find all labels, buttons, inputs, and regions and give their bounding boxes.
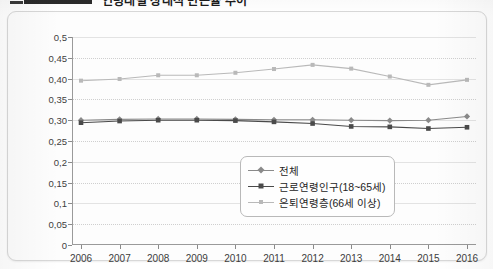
x-tick-label: 2014 bbox=[379, 253, 401, 264]
y-tick-mark bbox=[68, 245, 72, 246]
legend-item-label: 근로연령인구(18~65세) bbox=[279, 179, 385, 194]
y-tick-label: 0,30 bbox=[49, 115, 68, 126]
x-tick-label: 2009 bbox=[186, 253, 208, 264]
x-tick-label: 2016 bbox=[456, 253, 478, 264]
data-point-marker bbox=[195, 73, 199, 77]
data-point-marker bbox=[388, 125, 393, 130]
y-tick-label: 0,15 bbox=[49, 177, 68, 188]
x-tick-label: 2007 bbox=[108, 253, 130, 264]
legend-item: 근로연령인구(18~65세) bbox=[248, 178, 385, 194]
data-point-marker bbox=[388, 75, 392, 79]
data-point-marker bbox=[195, 118, 200, 123]
data-point-marker bbox=[426, 83, 430, 87]
legend-item-label: 전체 bbox=[279, 163, 299, 178]
chart-title-text: 연령대별 상대적 빈곤율 추이 bbox=[102, 0, 247, 8]
data-point-marker bbox=[233, 71, 237, 75]
y-tick-label: 0,1 bbox=[54, 198, 67, 209]
legend-item: 은퇴연령층(66세 이상) bbox=[248, 194, 385, 210]
x-tick-mark bbox=[313, 245, 314, 249]
chart-card: 00,050,10,150,20,250,300,350,400,450,5 2… bbox=[7, 11, 487, 261]
data-point-marker bbox=[465, 78, 469, 82]
data-point-marker bbox=[426, 126, 431, 131]
data-series bbox=[79, 63, 469, 87]
legend-marker-square-icon bbox=[248, 180, 274, 192]
legend-marker-diamond-icon bbox=[248, 164, 274, 176]
legend-item: 전체 bbox=[248, 162, 385, 178]
x-tick-mark bbox=[351, 245, 352, 249]
data-point-marker bbox=[349, 67, 353, 71]
data-series bbox=[79, 118, 470, 131]
data-point-marker bbox=[156, 73, 160, 77]
x-tick-mark bbox=[274, 245, 275, 249]
y-tick-label: 0,5 bbox=[54, 32, 67, 43]
x-tick-mark bbox=[197, 245, 198, 249]
data-point-marker bbox=[272, 67, 276, 71]
data-point-marker bbox=[233, 118, 238, 123]
chart-legend: 전체근로연령인구(18~65세)은퇴연령층(66세 이상) bbox=[240, 156, 395, 217]
y-tick-label: 0,2 bbox=[54, 156, 67, 167]
x-tick-label: 2012 bbox=[301, 253, 323, 264]
title-dash-marker bbox=[10, 1, 23, 4]
data-point-marker bbox=[272, 120, 277, 125]
legend-marker-square-small-icon bbox=[248, 196, 274, 208]
x-tick-label: 2010 bbox=[224, 253, 246, 264]
y-tick-label: 0,25 bbox=[49, 136, 68, 147]
x-tick-label: 2015 bbox=[417, 253, 439, 264]
data-point-marker bbox=[349, 124, 354, 129]
data-point-marker bbox=[79, 120, 84, 125]
data-point-marker bbox=[156, 118, 161, 123]
x-tick-mark bbox=[158, 245, 159, 249]
legend-item-label: 은퇴연령층(66세 이상) bbox=[279, 195, 381, 210]
x-tick-mark bbox=[467, 245, 468, 249]
x-tick-label: 2008 bbox=[147, 253, 169, 264]
y-tick-label: 0,35 bbox=[49, 94, 68, 105]
x-tick-mark bbox=[81, 245, 82, 249]
x-tick-mark bbox=[235, 245, 236, 249]
cropped-title-bar: 연령대별 상대적 빈곤율 추이 bbox=[0, 0, 493, 9]
y-tick-label: 0,40 bbox=[49, 73, 68, 84]
data-point-marker bbox=[79, 79, 83, 83]
data-point-marker bbox=[348, 117, 354, 123]
x-tick-label: 2006 bbox=[70, 253, 92, 264]
data-point-marker bbox=[464, 113, 470, 119]
y-tick-label: 0,05 bbox=[49, 219, 68, 230]
data-point-marker bbox=[465, 125, 470, 130]
x-tick-label: 2011 bbox=[263, 253, 285, 264]
x-tick-mark bbox=[390, 245, 391, 249]
data-point-marker bbox=[118, 77, 122, 81]
x-tick-label: 2013 bbox=[340, 253, 362, 264]
data-point-marker bbox=[310, 121, 315, 126]
data-point-marker bbox=[311, 63, 315, 67]
data-point-marker bbox=[117, 119, 122, 124]
title-black-label-block bbox=[24, 0, 92, 4]
y-tick-label: 0 bbox=[62, 240, 67, 251]
y-tick-label: 0,45 bbox=[49, 52, 68, 63]
data-point-marker bbox=[387, 118, 393, 124]
x-tick-mark bbox=[428, 245, 429, 249]
data-point-marker bbox=[425, 117, 431, 123]
x-tick-mark bbox=[120, 245, 121, 249]
